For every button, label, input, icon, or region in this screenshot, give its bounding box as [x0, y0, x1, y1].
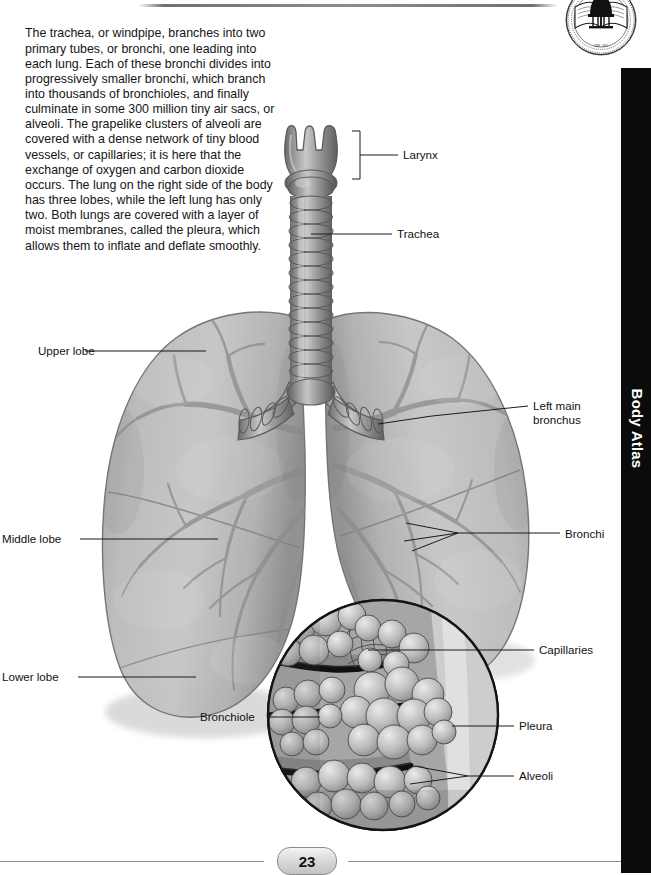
lungs-illustration [0, 0, 621, 840]
label-middle-lobe: Middle lobe [2, 532, 61, 546]
label-capillaries: Capillaries [539, 643, 593, 657]
label-larynx: Larynx [403, 148, 438, 162]
larynx [285, 126, 338, 199]
page-number: 23 [277, 847, 337, 875]
label-bronchiole: Bronchiole [200, 710, 255, 724]
footer-rule-right [348, 861, 621, 862]
label-bronchi: Bronchi [565, 527, 604, 541]
label-alveoli: Alveoli [519, 769, 553, 783]
label-trachea: Trachea [397, 227, 439, 241]
right-lung-three-lobes [92, 312, 316, 717]
sidebar-title: Body Atlas [629, 369, 646, 489]
label-lower-lobe: Lower lobe [2, 670, 59, 684]
footer-rule-left [0, 861, 264, 862]
label-pleura: Pleura [519, 719, 553, 733]
label-left-main-bronchus: Left main bronchus [533, 399, 619, 426]
right-sidebar: Body Atlas [621, 68, 651, 873]
alveoli-detail-inset [268, 600, 500, 830]
label-upper-lobe: Upper lobe [38, 344, 95, 358]
